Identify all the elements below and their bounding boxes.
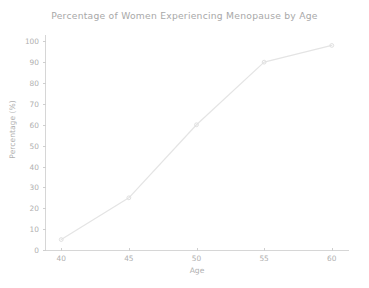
y-tick-label: 100 [0,37,39,46]
y-tick-label: 70 [0,100,39,109]
x-tick-label: 50 [177,254,217,263]
y-tick-label: 80 [0,79,39,88]
y-tick-label: 90 [0,58,39,67]
x-axis-label: Age [45,266,349,275]
plot-area [45,35,348,250]
y-axis-label: Percentage (%) [8,85,17,175]
x-tick-label: 45 [109,254,149,263]
series-markers [59,44,333,242]
y-tick-label: 60 [0,121,39,130]
y-tick-mark [43,250,46,251]
chart-title: Percentage of Women Experiencing Menopau… [0,10,369,21]
chart-figure: Percentage of Women Experiencing Menopau… [0,0,369,288]
x-tick-label: 55 [244,254,284,263]
y-tick-label: 50 [0,142,39,151]
y-tick-label: 20 [0,204,39,213]
y-tick-label: 0 [0,246,39,255]
y-tick-label: 10 [0,225,39,234]
x-tick-label: 60 [312,254,352,263]
y-tick-label: 40 [0,163,39,172]
series-line [61,45,332,239]
line-series-svg [45,35,348,250]
x-tick-label: 40 [41,254,81,263]
y-tick-label: 30 [0,183,39,192]
